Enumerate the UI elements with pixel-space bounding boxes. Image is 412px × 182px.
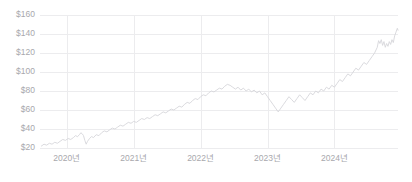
x-tick-label: 2022년 [187, 153, 214, 163]
y-tick-label: $140 [16, 28, 35, 38]
line-chart: $20$40$60$80$100$120$140$160 2020년2021년2… [0, 0, 412, 182]
x-tick-label: 2023년 [254, 153, 281, 163]
y-tick-label: $20 [21, 142, 35, 152]
horizontal-gridlines [40, 16, 398, 149]
y-tick-label: $120 [16, 47, 35, 57]
y-tick-label: $100 [16, 66, 35, 76]
x-tick-label: 2021년 [120, 153, 147, 163]
y-tick-label: $80 [21, 85, 35, 95]
y-tick-label: $40 [21, 123, 35, 133]
y-tick-label: $60 [21, 104, 35, 114]
chart-canvas: $20$40$60$80$100$120$140$160 2020년2021년2… [0, 0, 412, 182]
x-axis-tick-labels: 2020년2021년2022년2023년2024년 [53, 153, 348, 163]
x-tick-label: 2024년 [321, 153, 348, 163]
price-series-line [41, 28, 398, 146]
y-tick-label: $160 [16, 9, 35, 19]
x-tick-label: 2020년 [53, 153, 80, 163]
y-axis-tick-labels: $20$40$60$80$100$120$140$160 [16, 9, 35, 152]
